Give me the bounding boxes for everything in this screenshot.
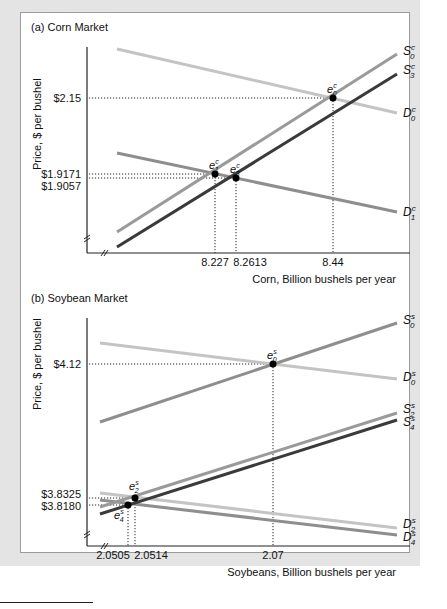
corn-label-d1: Dc1: [403, 204, 416, 222]
soy-label-d4: Ds4: [403, 529, 416, 547]
soy-label-d0: Ds0: [403, 369, 416, 387]
figure-svg: (a) Corn Market Price, $ per bushel $2.1…: [0, 0, 447, 609]
soy-supply-s4: [100, 420, 397, 514]
corn-y-tick-1.9171: $1.9171: [41, 168, 81, 180]
corn-x-tick-8.2613: 8.2613: [233, 256, 267, 268]
soy-x-tick-2.0514: 2.0514: [134, 549, 168, 561]
soy-label-s4: Ss4: [403, 414, 415, 432]
soy-label-s0: Ss0: [403, 312, 415, 330]
corn-label-s0: Sc0: [403, 43, 415, 61]
soy-y-tick-3.8325: $3.8325: [41, 488, 81, 500]
corn-y-tick-2.15: $2.15: [53, 92, 81, 104]
soy-x-tick-2.0505: 2.0505: [96, 549, 130, 561]
soy-chart-title: (b) Soybean Market: [31, 292, 128, 304]
corn-x-tick-8.44: 8.44: [322, 256, 343, 268]
soy-label-e0: es0: [267, 348, 277, 363]
corn-market-chart: (a) Corn Market Price, $ per bushel $2.1…: [31, 21, 416, 285]
soybean-market-chart: (b) Soybean Market Price, $ per bushel $…: [31, 292, 416, 578]
corn-y-tick-1.9057: $1.9057: [41, 180, 81, 192]
soy-label-e2: es2: [129, 479, 139, 494]
soy-demand-d2: [100, 493, 397, 528]
corn-guide-lines: [89, 98, 333, 253]
footnote-rule: [0, 602, 93, 603]
corn-x-axis-label: Corn, Billion bushels per year: [252, 273, 396, 285]
soy-label-e4: es4: [114, 508, 124, 523]
corn-y-axis-label: Price, $ per bushel: [31, 78, 43, 170]
corn-label-e1: ec1: [209, 158, 219, 173]
soy-equilibrium-e2: [132, 495, 139, 502]
corn-label-d0: Dc0: [403, 105, 416, 123]
soy-supply-s2: [100, 413, 397, 507]
soy-y-tick-4.12: $4.12: [53, 358, 81, 370]
soy-demand-d4: [100, 500, 397, 535]
soy-x-tick-2.07: 2.07: [262, 549, 283, 561]
corn-chart-title: (a) Corn Market: [31, 21, 108, 33]
soy-x-axis-label: Soybeans, Billion bushels per year: [227, 566, 396, 578]
corn-x-tick-8.227: 8.227: [201, 256, 229, 268]
soy-y-axis-label: Price, $ per bushel: [31, 318, 43, 410]
soy-y-tick-3.8180: $3.8180: [41, 500, 81, 512]
corn-label-e3: ec3: [230, 162, 240, 177]
corn-label-e0: ec0: [327, 82, 337, 97]
corn-label-s3: Sc3: [403, 62, 415, 80]
soy-equilibrium-e4: [125, 502, 132, 509]
